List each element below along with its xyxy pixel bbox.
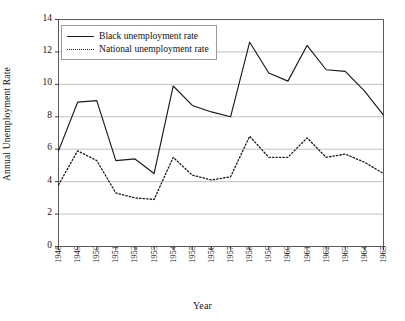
legend-label: National unemployment rate bbox=[99, 43, 209, 54]
x-axis-title-text: Year bbox=[193, 300, 212, 311]
chart-legend: Black unemployment rateNational unemploy… bbox=[61, 25, 217, 60]
legend-item: National unemployment rate bbox=[67, 42, 209, 55]
legend-item: Black unemployment rate bbox=[67, 29, 209, 42]
series-line-black-unemployment bbox=[59, 42, 384, 173]
x-axis-title: Year bbox=[0, 300, 405, 311]
unemployment-line-chart: Annual Unemployment Rate 02468101214 194… bbox=[0, 0, 405, 321]
series-line-national-unemployment bbox=[59, 136, 384, 199]
legend-label: Black unemployment rate bbox=[99, 30, 198, 41]
legend-swatch-solid-line-icon bbox=[67, 31, 94, 41]
legend-swatch-dotted-line-icon bbox=[67, 44, 94, 54]
